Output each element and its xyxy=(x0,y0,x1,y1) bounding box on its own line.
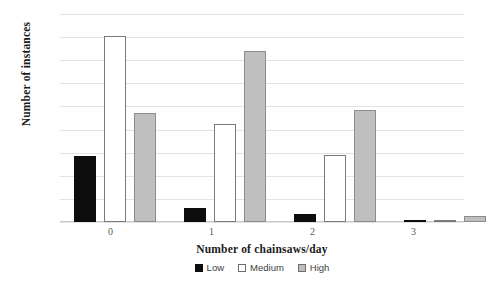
bar-medium-0 xyxy=(104,36,126,222)
x-axis-title: Number of chainsaws/day xyxy=(60,243,464,255)
gridline xyxy=(60,222,464,223)
legend: LowMediumHigh xyxy=(60,262,464,273)
bar-group xyxy=(280,14,390,222)
bar-low-3 xyxy=(404,220,426,222)
bar-high-2 xyxy=(354,110,376,222)
bar-group xyxy=(60,14,170,222)
bar-high-1 xyxy=(244,51,266,222)
bar-medium-2 xyxy=(324,155,346,222)
bar-group xyxy=(390,14,490,222)
x-axis-tick-label: 0 xyxy=(60,226,161,237)
legend-item-medium: Medium xyxy=(238,262,284,273)
y-axis-title: Number of instances xyxy=(20,0,32,154)
x-axis-tick-label: 1 xyxy=(161,226,262,237)
legend-label: High xyxy=(310,262,330,273)
legend-item-low: Low xyxy=(195,262,224,273)
legend-swatch-icon xyxy=(238,264,246,272)
legend-swatch-icon xyxy=(298,264,306,272)
bar-group xyxy=(170,14,280,222)
plot-area: 020406080100120140160180 xyxy=(60,14,464,222)
bar-low-0 xyxy=(74,156,96,222)
legend-swatch-icon xyxy=(195,264,203,272)
legend-item-high: High xyxy=(298,262,330,273)
bar-groups xyxy=(60,14,464,222)
x-axis-tick-label: 2 xyxy=(262,226,363,237)
legend-label: Low xyxy=(207,262,224,273)
bar-medium-1 xyxy=(214,124,236,222)
bar-high-0 xyxy=(134,113,156,222)
legend-label: Medium xyxy=(250,262,284,273)
x-axis-tick-label: 3 xyxy=(363,226,464,237)
bar-low-1 xyxy=(184,208,206,222)
bar-high-3 xyxy=(464,216,486,222)
bar-medium-3 xyxy=(434,220,456,222)
bar-low-2 xyxy=(294,214,316,222)
x-axis-tick-labels: 0123 xyxy=(60,226,464,237)
